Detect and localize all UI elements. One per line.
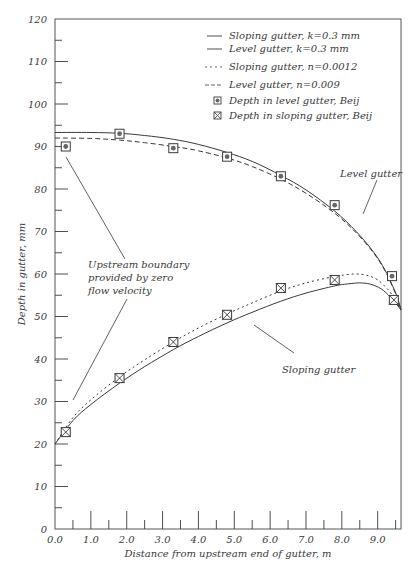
level-depth-marker bbox=[330, 201, 339, 210]
x-tick-label: 9.0 bbox=[370, 534, 387, 545]
sloping-depth-marker bbox=[330, 275, 339, 284]
upstream-annotation-line-1: Upstream boundary bbox=[88, 259, 190, 270]
depth-profile-chart: 01020304050607080901001101200.01.02.03.0… bbox=[0, 0, 413, 573]
x-tick-label: 2.0 bbox=[118, 534, 136, 545]
sloping-depth-marker bbox=[115, 374, 124, 383]
y-tick-label: 80 bbox=[34, 184, 47, 195]
level-depth-marker bbox=[388, 272, 397, 281]
dot-square-marker-icon bbox=[214, 97, 221, 104]
y-tick-label: 50 bbox=[34, 311, 47, 322]
level-depth-marker bbox=[276, 172, 285, 181]
y-tick-label: 10 bbox=[34, 481, 47, 492]
y-tick-label: 90 bbox=[34, 141, 47, 152]
annotations: Upstream boundary provided by zero flow … bbox=[66, 157, 403, 400]
y-axis-title: Depth in gutter, mm bbox=[16, 223, 27, 327]
sloping-depth-marker bbox=[169, 338, 178, 347]
y-tick-label: 70 bbox=[34, 226, 47, 237]
level-depth-marker bbox=[169, 144, 178, 153]
level-depth-marker bbox=[115, 129, 124, 138]
x-square-marker-icon bbox=[214, 112, 221, 119]
level-gutter-leader-line bbox=[363, 180, 377, 214]
y-tick-label: 120 bbox=[28, 14, 48, 25]
x-tick-label: 1.0 bbox=[83, 534, 100, 545]
y-tick-label: 60 bbox=[34, 269, 47, 280]
sloping-depth-marker bbox=[223, 310, 232, 319]
level-depth-marker bbox=[223, 152, 232, 161]
y-tick-label: 20 bbox=[33, 439, 47, 450]
x-tick-label: 5.0 bbox=[226, 534, 243, 545]
sloping-depth-marker bbox=[61, 428, 70, 437]
y-tick-label: 110 bbox=[28, 56, 48, 67]
y-tick-label: 0 bbox=[41, 524, 48, 535]
legend-item-sloping-k: Sloping gutter, k=0.3 mm bbox=[229, 30, 360, 41]
legend-item-level-k: Level gutter, k=0.3 mm bbox=[228, 43, 349, 54]
x-tick-label: 7.0 bbox=[298, 534, 315, 545]
x-axis-title: Distance from upstream end of gutter, m bbox=[123, 548, 331, 559]
series-line-2 bbox=[55, 274, 401, 444]
legend-item-sloping-beij: Depth in sloping gutter, Beij bbox=[228, 110, 372, 121]
level-gutter-annotation: Level gutter bbox=[339, 168, 403, 179]
upstream-leader-line-top bbox=[66, 157, 125, 259]
sloping-depth-marker bbox=[276, 284, 285, 293]
x-tick-label: 3.0 bbox=[155, 534, 172, 545]
x-tick-label: 8.0 bbox=[334, 534, 351, 545]
upstream-annotation-line-2: provided by zero bbox=[88, 272, 173, 283]
level-depth-marker bbox=[61, 142, 70, 151]
upstream-leader-line-bottom bbox=[73, 299, 127, 400]
sloping-gutter-leader-line bbox=[254, 325, 294, 353]
y-tick-label: 30 bbox=[34, 396, 47, 407]
upstream-annotation-line-3: flow velocity bbox=[87, 285, 152, 296]
sloping-depth-marker bbox=[389, 295, 398, 304]
x-tick-label: 6.0 bbox=[262, 534, 279, 545]
axis-ticks: 01020304050607080901001101200.01.02.03.0… bbox=[28, 14, 396, 546]
legend-item-level-n: Level gutter, n=0.009 bbox=[228, 79, 340, 90]
sloping-gutter-annotation: Sloping gutter bbox=[282, 364, 356, 375]
x-tick-label: 4.0 bbox=[189, 534, 207, 545]
legend-item-level-beij: Depth in level gutter, Beij bbox=[228, 95, 359, 106]
x-tick-label: 0.0 bbox=[47, 534, 64, 545]
y-tick-label: 40 bbox=[33, 354, 47, 365]
legend-item-sloping-n: Sloping gutter, n=0.0012 bbox=[229, 61, 357, 72]
legend: Sloping gutter, k=0.3 mm Level gutter, k… bbox=[205, 30, 372, 121]
y-tick-label: 100 bbox=[28, 99, 48, 110]
